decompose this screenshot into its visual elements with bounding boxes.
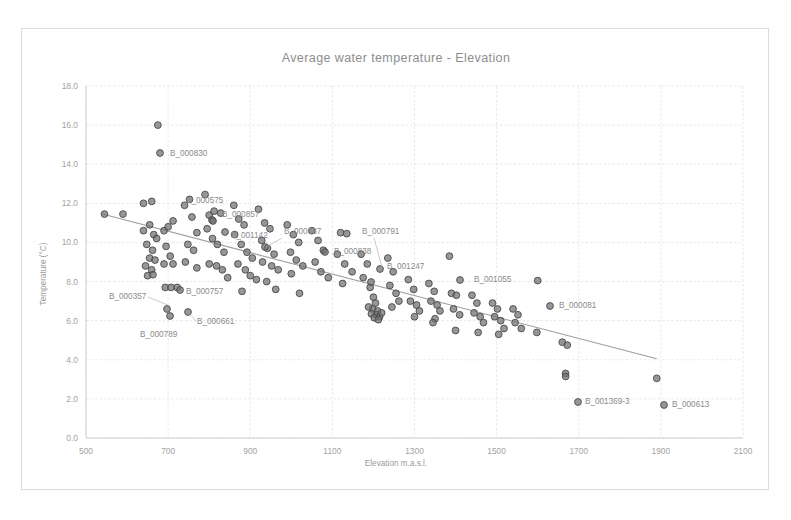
data-point-label: B_000575 — [186, 196, 224, 205]
data-point — [339, 280, 346, 287]
data-point — [235, 261, 242, 268]
labeled-data-point — [322, 249, 329, 256]
data-point — [244, 249, 251, 256]
data-point-label: B_000661 — [197, 317, 235, 326]
data-point — [497, 317, 504, 324]
data-point — [450, 306, 457, 313]
data-point — [165, 223, 172, 230]
data-point — [315, 237, 322, 244]
data-point — [206, 261, 213, 268]
labeled-data-point — [262, 244, 269, 251]
data-point-label: B_000857 — [222, 210, 260, 219]
data-point — [416, 307, 423, 314]
data-point — [150, 271, 157, 278]
data-point — [153, 235, 160, 242]
data-point — [469, 292, 476, 299]
data-point — [140, 227, 147, 234]
y-tick-label: 8.0 — [66, 277, 78, 287]
data-point — [182, 259, 189, 266]
data-point — [564, 342, 571, 349]
data-point — [365, 304, 372, 311]
data-point — [299, 263, 306, 270]
data-point — [253, 276, 260, 283]
y-tick-label: 2.0 — [66, 394, 78, 404]
data-point-label: B_000830 — [170, 149, 208, 158]
y-tick-labels-group: 0.02.04.06.08.010.012.014.016.018.0 — [62, 81, 79, 443]
labeled-data-point — [167, 313, 174, 320]
y-tick-label: 6.0 — [66, 316, 78, 326]
data-point — [364, 261, 371, 268]
x-tick-label: 700 — [161, 446, 175, 456]
x-tick-label: 1300 — [405, 446, 424, 456]
x-tick-label: 1100 — [323, 446, 341, 456]
data-point — [375, 316, 382, 323]
data-point-label: B_000757 — [186, 287, 224, 296]
data-point — [453, 292, 460, 299]
labeled-data-point — [222, 229, 229, 236]
data-point — [510, 306, 517, 313]
data-point — [405, 276, 412, 283]
data-point — [204, 225, 211, 232]
data-point — [143, 241, 150, 248]
data-point — [287, 249, 294, 256]
y-tick-label: 0.0 — [66, 433, 78, 443]
x-tick-label: 1700 — [569, 446, 588, 456]
data-point — [238, 241, 245, 248]
labeled-data-point — [457, 277, 464, 284]
data-point — [452, 327, 459, 334]
data-point — [142, 263, 149, 270]
data-point — [410, 286, 417, 293]
data-point — [411, 313, 418, 320]
data-point — [140, 200, 147, 207]
data-point — [161, 261, 168, 268]
data-point — [219, 266, 226, 273]
x-axis-title: Elevation m.a.s.l. — [365, 459, 427, 468]
labeled-data-point — [575, 399, 582, 406]
x-tick-label: 500 — [79, 446, 93, 456]
data-point — [295, 239, 302, 246]
x-tick-labels-group: 500700900110013001500170019002100 — [79, 446, 753, 456]
data-point — [193, 264, 200, 271]
chart-outer-frame: Average water temperature - Elevation 0.… — [21, 28, 769, 490]
y-tick-label: 18.0 — [62, 81, 79, 91]
data-point — [430, 319, 437, 326]
data-point — [189, 214, 196, 221]
data-point — [190, 247, 197, 254]
labeled-data-point — [210, 218, 217, 225]
data-point — [296, 290, 303, 297]
data-point-label: B_000887 — [284, 227, 322, 236]
data-point — [312, 259, 319, 266]
x-tick-label: 1500 — [487, 446, 506, 456]
data-point — [386, 282, 393, 289]
data-point — [293, 257, 300, 264]
data-point — [239, 288, 246, 295]
data-point — [495, 331, 502, 338]
data-point-label: B_001369-3 — [585, 397, 630, 406]
data-point — [317, 268, 324, 275]
data-point — [456, 311, 463, 318]
y-tick-label: 12.0 — [62, 198, 79, 208]
x-tick-label: 1900 — [652, 446, 671, 456]
labeled-data-point — [377, 266, 384, 273]
y-tick-label: 4.0 — [66, 355, 78, 365]
data-point — [224, 274, 231, 281]
data-point-label: B_000789 — [140, 330, 178, 339]
data-point — [268, 263, 275, 270]
data-point — [241, 221, 248, 228]
labeled-data-point — [177, 287, 184, 294]
data-point — [437, 307, 444, 314]
x-tick-label: 900 — [243, 446, 257, 456]
data-point — [261, 219, 268, 226]
labeled-data-point — [164, 306, 171, 313]
data-point — [389, 304, 396, 311]
data-point — [475, 329, 482, 336]
data-point — [170, 218, 177, 225]
data-point — [221, 249, 228, 256]
chart-figure: Average water temperature - Elevation 0.… — [0, 0, 791, 520]
y-tick-label: 16.0 — [62, 120, 79, 130]
data-point-label: B_000613 — [672, 400, 710, 409]
data-point — [149, 247, 156, 254]
data-point — [480, 319, 487, 326]
data-point — [184, 241, 191, 248]
data-point — [515, 311, 522, 318]
